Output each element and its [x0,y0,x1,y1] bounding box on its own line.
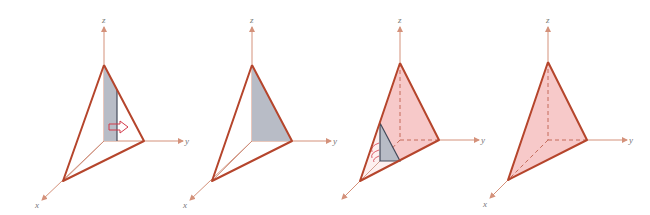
z-label: z [397,15,402,25]
y-label: y [332,136,337,146]
x-label: x [34,200,39,210]
z-label: z [249,15,254,25]
y-label: y [184,136,189,146]
panel-1: z y x [34,15,189,210]
z-label: z [545,15,550,25]
x-label: x [182,200,187,210]
y-label: y [628,135,633,145]
x-axis [490,180,508,198]
panel-2: z y x [182,15,337,210]
panel-3: z y [342,15,485,199]
y-label: y [480,135,485,145]
tetrahedron-figure: z y x z y x z y [0,0,650,215]
x-label: x [482,199,487,209]
z-label: z [101,15,106,25]
x-axis [342,181,360,199]
panel-4: z y x [482,15,633,209]
